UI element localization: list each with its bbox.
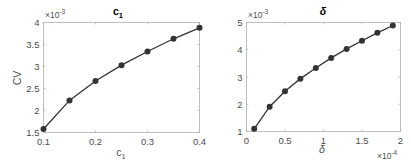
y-tick-label: 4 <box>237 44 242 55</box>
data-point-marker <box>67 97 73 103</box>
data-point-marker <box>328 55 334 61</box>
y-multiplier-c1: ×10-3 <box>45 8 66 20</box>
x-axis-label-c1: c1 <box>116 146 125 161</box>
data-point-marker <box>313 65 319 71</box>
data-markers-delta <box>251 22 396 131</box>
data-point-marker <box>267 104 273 110</box>
x-tick-label: 0.5 <box>278 135 291 146</box>
x-multiplier-delta: ×10-4 <box>377 149 398 161</box>
data-point-marker <box>359 38 365 44</box>
data-point-marker <box>251 126 257 132</box>
chart-delta: 00.511.52 12345 δ δ ×10-3 ×10-4 <box>237 5 403 161</box>
chart-c1: 0.10.20.30.4 1.522.533.54 c1 c1 CV ×10-3 <box>11 5 206 161</box>
y-tick-label: 1.5 <box>26 127 39 138</box>
y-tick-label: 2 <box>237 99 242 110</box>
x-tick-label: 2 <box>398 135 403 146</box>
data-point-marker <box>374 30 380 36</box>
data-point-marker <box>93 78 99 84</box>
data-point-marker <box>119 62 125 68</box>
x-ticks-c1: 0.10.20.30.4 <box>37 23 206 147</box>
y-multiplier-delta: ×10-3 <box>248 8 269 20</box>
y-tick-label: 4 <box>34 17 39 28</box>
x-ticks-delta: 00.511.52 <box>244 23 403 146</box>
data-point-marker <box>197 25 203 31</box>
x-tick-label: 0.3 <box>141 136 154 147</box>
data-markers-c1 <box>41 25 203 132</box>
y-tick-label: 3.5 <box>26 39 39 50</box>
y-tick-label: 1 <box>237 126 242 137</box>
data-point-marker <box>41 126 47 132</box>
x-tick-label: 0 <box>244 135 249 146</box>
chart-title-delta: δ <box>320 5 327 17</box>
data-point-marker <box>171 36 177 42</box>
data-point-marker <box>282 88 288 94</box>
plot-area-delta <box>247 23 401 132</box>
x-tick-label: 1.5 <box>355 135 368 146</box>
data-point-marker <box>145 49 151 55</box>
data-point-marker <box>344 46 350 52</box>
x-tick-label: 0.4 <box>193 136 206 147</box>
x-tick-label: 0.2 <box>89 136 102 147</box>
chart-canvas: 0.10.20.30.4 1.522.533.54 c1 c1 CV ×10-3… <box>0 0 411 165</box>
y-tick-label: 3 <box>34 61 39 72</box>
x-axis-label-delta: δ <box>319 143 325 155</box>
y-tick-label: 2 <box>34 105 39 116</box>
data-point-marker <box>390 22 396 28</box>
y-tick-label: 2.5 <box>26 83 39 94</box>
data-line-delta <box>254 25 393 128</box>
y-axis-label-c1: CV <box>11 71 23 86</box>
y-tick-label: 3 <box>237 72 242 83</box>
chart-title-c1: c1 <box>113 5 123 20</box>
y-tick-label: 5 <box>237 17 242 28</box>
data-line-c1 <box>44 28 200 129</box>
data-point-marker <box>297 76 303 82</box>
